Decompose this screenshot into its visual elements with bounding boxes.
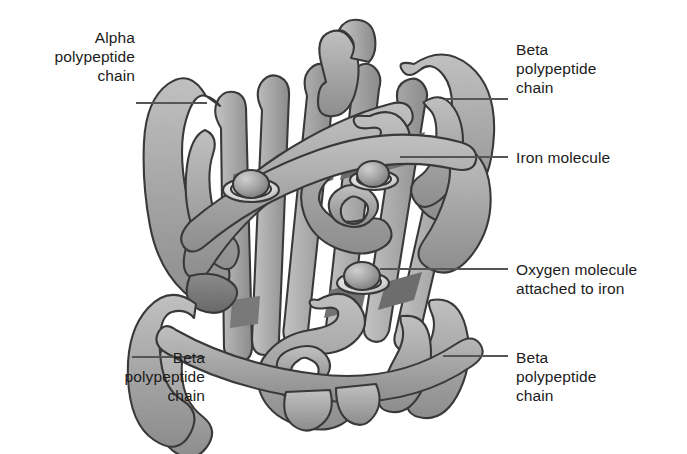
label-beta-polypeptide-chain-top-right: Beta polypeptide chain <box>516 40 684 97</box>
label-iron-molecule: Iron molecule <box>516 148 684 167</box>
label-alpha-polypeptide-chain: Alpha polypeptide chain <box>0 28 135 85</box>
label-oxygen-molecule: Oxygen molecule attached to iron <box>516 260 687 298</box>
label-beta-polypeptide-chain-bottom-left: Beta polypeptide chain <box>45 348 205 405</box>
figure-canvas: Alpha polypeptide chain Beta polypeptide… <box>0 0 687 454</box>
label-beta-polypeptide-chain-bottom-right: Beta polypeptide chain <box>516 348 684 405</box>
